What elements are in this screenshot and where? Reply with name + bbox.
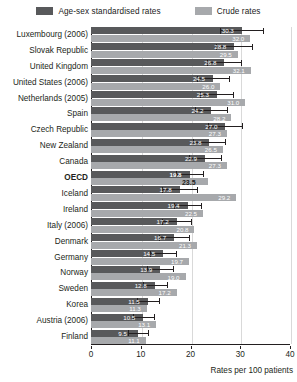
bar-value-standardised: 22.9 — [185, 156, 197, 162]
bar-value-standardised: 9.5 — [118, 331, 127, 337]
x-tick-30 — [240, 346, 241, 349]
error-cap-high — [173, 266, 174, 272]
error-cap-high — [225, 139, 226, 145]
bar-value-crude: 28.2 — [213, 116, 225, 122]
x-tick-label-40: 40 — [285, 350, 294, 359]
bar-rows: Luxembourg (2006)30.332.0Slovak Republic… — [0, 27, 297, 345]
chart-row: Iceland17.829.2 — [0, 186, 297, 202]
bar-value-standardised: 24.2 — [191, 108, 203, 114]
bar-value-standardised: 19.4 — [168, 203, 180, 209]
legend-swatch-standardised — [36, 7, 53, 15]
chart-row: OECD19.823.5 — [0, 170, 297, 186]
bar-value-crude: 11.3 — [129, 306, 141, 312]
chart-row: Norway13.919.0 — [0, 266, 297, 282]
bar-group: 16.721.3 — [91, 234, 290, 250]
x-tick-20 — [191, 346, 192, 349]
bar-value-crude: 27.3 — [209, 163, 221, 169]
bar-group: 26.832.1 — [91, 59, 290, 75]
bar-group: 17.829.2 — [91, 186, 290, 202]
bar-group: 30.332.0 — [91, 27, 290, 43]
bar-group: 19.422.5 — [91, 202, 290, 218]
error-cap-high — [189, 235, 190, 241]
bar-value-crude: 31.0 — [227, 100, 239, 106]
category-label-oecd: OECD — [64, 174, 88, 182]
bar-group: 28.829.5 — [91, 43, 290, 59]
bar-value-standardised: 14.5 — [143, 251, 155, 257]
error-cap-high — [154, 314, 155, 320]
bar-value-crude: 13.1 — [138, 322, 150, 328]
bar-value-standardised: 17.2 — [157, 219, 169, 225]
x-tick-40 — [290, 346, 291, 349]
error-cap-high — [191, 219, 192, 225]
bar-group: 27.027.3 — [91, 122, 290, 138]
bar-standardised — [91, 27, 242, 34]
chart-row: Slovak Republic28.829.5 — [0, 43, 297, 59]
legend-label-standardised: Age-sex standardised rates — [58, 7, 160, 16]
bar-group: 24.228.2 — [91, 107, 290, 123]
bar-value-standardised: 10.5 — [123, 315, 135, 321]
error-bar — [128, 333, 148, 334]
error-cap-low — [128, 330, 129, 336]
category-label-netherlands-2005: Netherlands (2005) — [18, 95, 88, 103]
x-tick-10 — [141, 346, 142, 349]
error-cap-high — [148, 330, 149, 336]
category-label-korea: Korea — [66, 301, 88, 309]
bar-value-crude: 32.0 — [232, 36, 244, 42]
bar-crude — [91, 114, 231, 121]
bar-crude — [91, 83, 220, 90]
chart-row: Czech Republic27.027.3 — [0, 122, 297, 138]
error-cap-high — [252, 44, 253, 50]
bar-value-standardised: 26.8 — [204, 60, 216, 66]
bar-value-standardised: 12.8 — [135, 283, 147, 289]
bar-standardised — [91, 43, 234, 50]
error-cap-high — [241, 60, 242, 66]
chart-row: Spain24.228.2 — [0, 107, 297, 123]
chart-row: Korea11.511.3 — [0, 297, 297, 313]
bar-value-crude: 27.3 — [209, 131, 221, 137]
chart-row: Luxembourg (2006)30.332.0 — [0, 27, 297, 43]
bar-group: 13.919.0 — [91, 266, 290, 282]
category-label-germany: Germany — [54, 254, 88, 262]
category-label-finland: Finland — [61, 333, 88, 341]
x-axis: 010203040 — [91, 346, 290, 360]
chart-row: Sweden12.817.2 — [0, 281, 297, 297]
bar-crude — [91, 99, 245, 106]
bar-group: 10.513.1 — [91, 313, 290, 329]
category-label-iceland: Iceland — [62, 190, 88, 198]
chart-row: United States (2006)24.526.0 — [0, 75, 297, 91]
category-label-slovak-republic: Slovak Republic — [29, 47, 88, 55]
bar-value-crude: 19.0 — [168, 275, 180, 281]
bar-value-standardised: 25.3 — [197, 92, 209, 98]
bar-group: 12.817.2 — [91, 281, 290, 297]
category-label-luxembourg-2006: Luxembourg (2006) — [17, 31, 88, 39]
bar-value-standardised: 17.8 — [160, 187, 172, 193]
error-cap-high — [229, 76, 230, 82]
bar-value-crude: 19.7 — [171, 259, 183, 265]
error-cap-high — [263, 28, 264, 34]
bar-crude — [91, 162, 227, 169]
bar-value-standardised: 11.5 — [128, 299, 140, 305]
error-cap-high — [159, 298, 160, 304]
bar-group: 23.826.5 — [91, 138, 290, 154]
legend-item-standardised: Age-sex standardised rates — [36, 7, 160, 16]
bar-value-standardised: 24.5 — [193, 76, 205, 82]
x-tick-label-10: 10 — [136, 350, 145, 359]
error-bar — [137, 301, 159, 302]
bar-group: 22.927.3 — [91, 154, 290, 170]
x-tick-0 — [91, 346, 92, 349]
bar-value-crude: 26.5 — [205, 147, 217, 153]
category-label-spain: Spain — [67, 110, 88, 118]
x-tick-label-30: 30 — [236, 350, 245, 359]
chart-row: Germany14.519.7 — [0, 250, 297, 266]
legend-swatch-crude — [195, 7, 212, 15]
bar-value-crude: 20.8 — [176, 227, 188, 233]
category-label-canada: Canada — [59, 158, 88, 166]
chart-container: Age-sex standardised rates Crude rates L… — [0, 0, 297, 382]
chart-row: Italy (2006)17.220.8 — [0, 218, 297, 234]
error-cap-high — [233, 92, 234, 98]
bar-value-crude: 29.2 — [218, 195, 230, 201]
chart-row: Netherlands (2005)25.331.0 — [0, 91, 297, 107]
legend-item-crude: Crude rates — [195, 7, 261, 16]
bar-value-standardised: 23.8 — [189, 140, 201, 146]
bar-group: 25.331.0 — [91, 91, 290, 107]
